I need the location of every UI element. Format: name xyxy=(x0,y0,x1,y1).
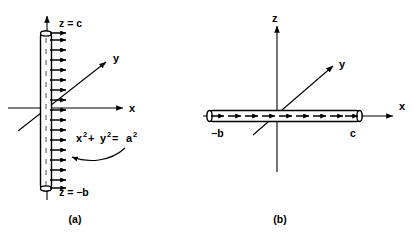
panel-b-caption: (b) xyxy=(273,213,286,225)
y-axis-label: y xyxy=(113,52,120,64)
equation-equals: = xyxy=(112,132,118,144)
equation-exp-3: 2 xyxy=(133,130,137,139)
charged-cylinder xyxy=(41,31,52,191)
panel-a-caption: (a) xyxy=(69,213,82,225)
panel-a-x-axis: x xyxy=(8,102,136,114)
z-axis-label: z xyxy=(272,12,278,24)
equation-var-a: a xyxy=(126,132,133,144)
rod-left-label: −b xyxy=(211,127,224,139)
cylinder-body xyxy=(41,31,52,191)
surface-equation: x 2 + y 2 = a 2 xyxy=(72,130,137,160)
equation-plus: + xyxy=(88,132,94,144)
equation-exp-1: 2 xyxy=(83,130,87,139)
rod-right-label: c xyxy=(350,127,356,139)
equation-var-x: x xyxy=(76,132,83,144)
panel-a: x y xyxy=(8,16,137,225)
x-axis-label: x xyxy=(129,102,136,114)
cylinder-bottom-label: z = −b xyxy=(59,186,89,198)
y-axis-line xyxy=(253,66,333,135)
cylinder-top-label: z = c xyxy=(59,17,82,29)
x-axis-label: x xyxy=(399,100,406,112)
equation-leader-arrow xyxy=(72,148,125,160)
panel-b-z-axis: z xyxy=(272,12,278,172)
equation-var-y: y xyxy=(100,132,107,144)
panel-b: z x y xyxy=(203,12,406,225)
figure-container: x y xyxy=(0,0,415,235)
field-arrows-panel-a xyxy=(50,33,66,188)
physics-figure: x y xyxy=(0,0,415,235)
y-axis-label: y xyxy=(339,58,346,70)
equation-exp-2: 2 xyxy=(107,130,111,139)
panel-a-y-axis: y xyxy=(18,52,120,131)
cylinder-bottom-cap xyxy=(41,186,52,191)
cylinder-top-cap xyxy=(41,31,52,36)
panel-b-y-axis: y xyxy=(253,58,346,135)
